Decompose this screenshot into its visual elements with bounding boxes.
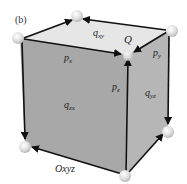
label-sub: z bbox=[117, 86, 120, 94]
label-Q: Q bbox=[124, 34, 132, 45]
node-sphere bbox=[123, 51, 133, 61]
node-sphere bbox=[12, 32, 24, 44]
label-sub: y bbox=[158, 52, 161, 60]
label-sub: x bbox=[69, 57, 72, 65]
panel-label: (b) bbox=[15, 14, 27, 25]
edge-arrow bbox=[168, 34, 169, 124]
cube-diagram: (b) qxy Q px py pz qzx qyz Oxyz bbox=[0, 0, 187, 184]
node-sphere bbox=[71, 10, 83, 22]
node-sphere bbox=[19, 141, 31, 153]
node-sphere bbox=[162, 126, 174, 138]
label-sub: zx bbox=[69, 104, 75, 112]
label-q-yz: qyz bbox=[145, 88, 156, 100]
label-sub: xy bbox=[98, 32, 104, 40]
label-p-x: px bbox=[64, 53, 72, 65]
label-origin: Oxyz bbox=[55, 164, 75, 174]
label-q-xy: qxy bbox=[93, 28, 104, 40]
label-p-z: pz bbox=[112, 82, 120, 94]
label-q-zx: qzx bbox=[64, 100, 75, 112]
label-p-y: py bbox=[153, 48, 161, 60]
label-base: Q bbox=[124, 33, 132, 45]
node-sphere bbox=[166, 25, 178, 37]
node-sphere bbox=[119, 170, 131, 182]
label-base: Oxyz bbox=[55, 163, 75, 174]
label-sub: yz bbox=[150, 92, 156, 100]
